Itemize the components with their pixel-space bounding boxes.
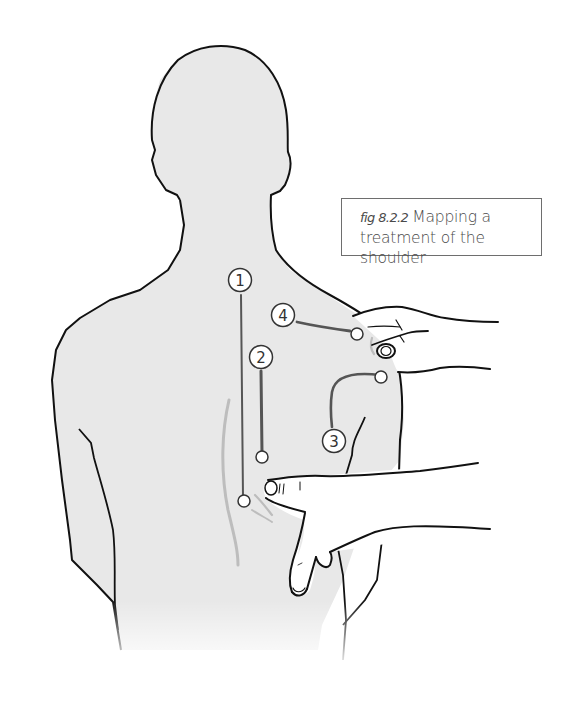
svg-text:4: 4 <box>278 307 288 325</box>
guide-line-2 <box>261 371 262 453</box>
figure-number: fig 8.2.2 <box>360 210 408 225</box>
svg-text:2: 2 <box>256 349 266 367</box>
shoulder-treatment-illustration: 1 2 3 4 <box>0 0 579 712</box>
point-2 <box>256 451 268 463</box>
body-silhouette <box>40 45 404 670</box>
figure-caption: fig 8.2.2Mapping a treatment of the shou… <box>341 198 542 256</box>
point-3 <box>375 371 387 383</box>
caption-line-1: Mapping a <box>412 208 491 226</box>
marker-4: 4 <box>272 304 295 327</box>
svg-text:3: 3 <box>329 433 339 451</box>
marker-3: 3 <box>323 430 346 453</box>
point-4 <box>351 328 363 340</box>
point-1 <box>238 495 250 507</box>
marker-2: 2 <box>250 346 273 369</box>
svg-text:1: 1 <box>235 272 245 290</box>
marker-1: 1 <box>229 269 252 292</box>
